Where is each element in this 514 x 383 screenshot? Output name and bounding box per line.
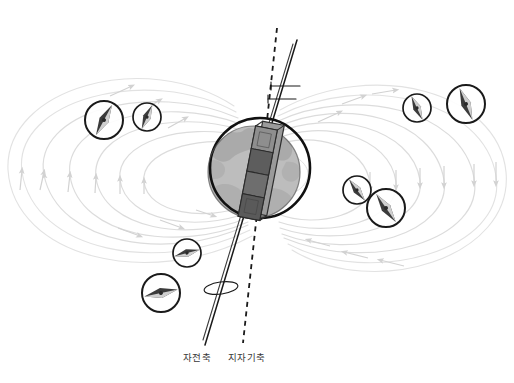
magnetic-field-diagram <box>0 0 514 383</box>
precession-ellipse <box>203 280 238 297</box>
compass-mid-right-inner[interactable] <box>343 176 371 204</box>
compass-upper-left-outer[interactable] <box>85 101 123 139</box>
compass-lower-mid[interactable] <box>173 239 201 267</box>
compass-upper-right-inner[interactable] <box>403 94 431 122</box>
compass-upper-right-outer[interactable] <box>447 85 485 123</box>
figure-canvas: 자전축 지자기축 <box>0 0 514 383</box>
compass-upper-left-inner[interactable] <box>133 103 161 131</box>
compass-mid-right-outer[interactable] <box>367 189 405 227</box>
compass-lower-left[interactable] <box>142 274 180 312</box>
geomagnetic-axis-label: 지자기축 <box>228 350 265 364</box>
rotation-axis-label: 자전축 <box>183 350 211 364</box>
